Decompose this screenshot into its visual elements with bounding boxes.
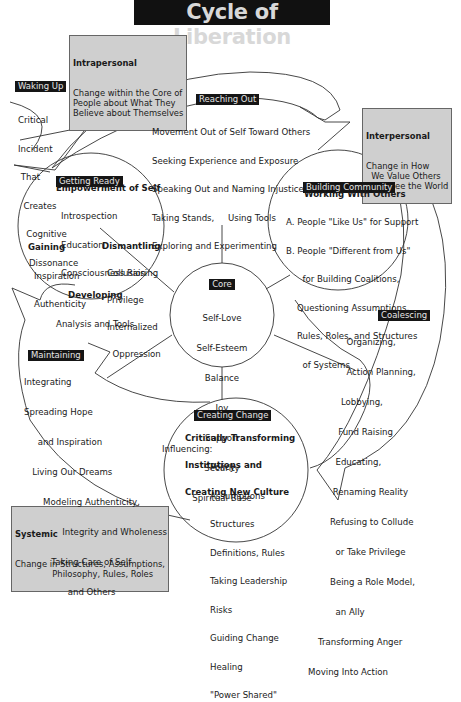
box-interpersonal-heading: Interpersonal	[366, 131, 448, 141]
creating-change-line: Policy	[210, 463, 287, 473]
reaching-out-line: Seeking Experience and Exposure	[152, 157, 310, 167]
developing-line: Analysis and Tools	[56, 320, 134, 330]
creating-change-line: Assumptions	[210, 492, 287, 502]
creating-change-line: Guiding Change	[210, 634, 287, 644]
maintaining-line: Integrating	[24, 377, 167, 387]
creating-change-line: Taking Leadership	[210, 577, 287, 587]
creating-change-line: Definitions, Rules	[210, 549, 287, 559]
creating-change-line: Structures	[210, 520, 287, 530]
waking-up-line: Critical	[18, 116, 78, 126]
getting-ready-heading: Empowerment of Self	[56, 183, 160, 193]
building-community-line: B. People "Different from Us"	[286, 247, 418, 257]
label-reaching-out: Reaching Out	[196, 94, 259, 105]
coalescing-line: Being a Role Model,	[330, 577, 416, 587]
core-line: Self-Love	[172, 313, 272, 323]
label-waking-up: Waking Up	[15, 81, 66, 92]
getting-ready-developing: Developing Analysis and Tools	[56, 272, 134, 339]
maintaining-list: Integrating Spreading Hope and Inspirati…	[24, 357, 167, 607]
building-community-heading: Working With Others	[304, 189, 406, 199]
developing-heading: Developing	[68, 291, 134, 301]
maintaining-line: Spreading Hope	[24, 407, 167, 417]
maintaining-line: Taking Care of Self	[24, 557, 167, 567]
maintaining-line: Living Our Dreams	[24, 467, 167, 477]
label-core: Core	[209, 279, 235, 290]
coalescing-list: Organizing, Action Planning, Lobbying, F…	[330, 317, 416, 687]
maintaining-line: and Others	[24, 587, 167, 597]
getting-ready-line: Introspection	[61, 212, 158, 222]
coalescing-line: Moving Into Action	[308, 667, 416, 677]
coalescing-line: or Take Privilege	[330, 547, 416, 557]
coalescing-line: Fund Raising	[330, 427, 416, 437]
creating-change-line: Risks	[210, 606, 287, 616]
creating-change-influencing-label: Influencing:	[162, 444, 212, 454]
building-community-line: A. People "Like Us" for Support	[286, 218, 418, 228]
reaching-out-line: Movement Out of Self Toward Others	[152, 128, 310, 138]
creating-change-line: "Power Shared"	[210, 691, 287, 701]
waking-up-line: Incident	[18, 145, 78, 155]
maintaining-line: Modeling Authenticity,	[24, 497, 167, 507]
coalescing-line: an Ally	[330, 607, 416, 617]
core-line: Balance	[172, 373, 272, 383]
coalescing-line: Renaming Reality	[330, 487, 416, 497]
building-community-line: for Building Coalitions,	[286, 275, 418, 285]
dismantling-heading: Dismantling	[102, 242, 161, 251]
core-line: Self-Esteem	[172, 343, 272, 353]
gaining-heading: Gaining	[28, 243, 86, 253]
coalescing-line: Action Planning,	[330, 367, 416, 377]
page-title: Cycle of Liberation	[134, 0, 330, 25]
creating-change-list: Policy Assumptions Structures Definition…	[210, 444, 287, 702]
box-intrapersonal-heading: Intrapersonal	[73, 58, 183, 68]
coalescing-line: Educating,	[330, 457, 416, 467]
reaching-out-line: Speaking Out and Naming Injustices	[152, 185, 310, 195]
creating-change-line: Healing	[210, 663, 287, 673]
maintaining-line: Integrity and Wholeness	[24, 527, 167, 537]
coalescing-line: Lobbying,	[330, 397, 416, 407]
coalescing-line: Transforming Anger	[318, 637, 416, 647]
creating-change-heading-line: Critically Transforming	[185, 434, 295, 443]
maintaining-line: and Inspiration	[24, 437, 167, 447]
coalescing-line: Refusing to Collude	[330, 517, 416, 527]
coalescing-line: Organizing,	[330, 337, 416, 347]
